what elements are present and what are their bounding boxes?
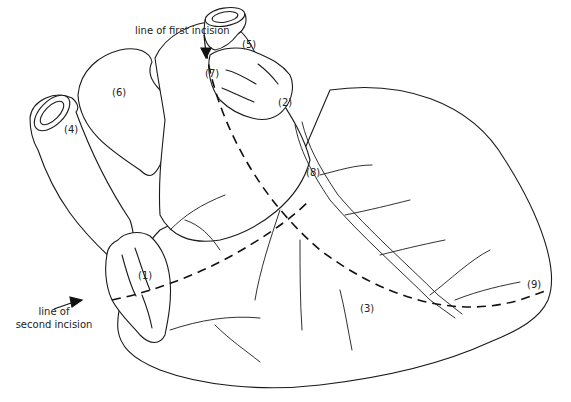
region-label-2: (2): [278, 97, 292, 108]
region-label-8: (8): [306, 167, 320, 178]
region-label-5: (5): [242, 39, 256, 50]
region-label-6: (6): [112, 87, 126, 98]
region-label-3: (3): [360, 303, 374, 314]
heart-diagram: line of first incision line of second in…: [0, 0, 571, 402]
first-incision-label: line of first incision: [135, 24, 230, 37]
second-incision-label-line2: second incision: [10, 318, 98, 331]
second-incision-label-line1: line of: [20, 305, 88, 318]
auricle-1-outline: [106, 233, 171, 343]
region-label-9: (9): [527, 279, 541, 290]
region-label-1: (1): [138, 270, 152, 281]
region-label-7: (7): [205, 68, 219, 79]
region-label-4: (4): [64, 124, 78, 135]
heart-drawing: [0, 0, 571, 402]
